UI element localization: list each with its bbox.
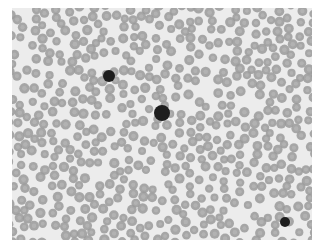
white-blood-cell <box>154 105 170 121</box>
blood-smear-canvas <box>12 8 312 240</box>
white-blood-cell <box>280 217 290 227</box>
white-blood-cell <box>103 70 115 82</box>
micrograph-image <box>12 8 312 240</box>
